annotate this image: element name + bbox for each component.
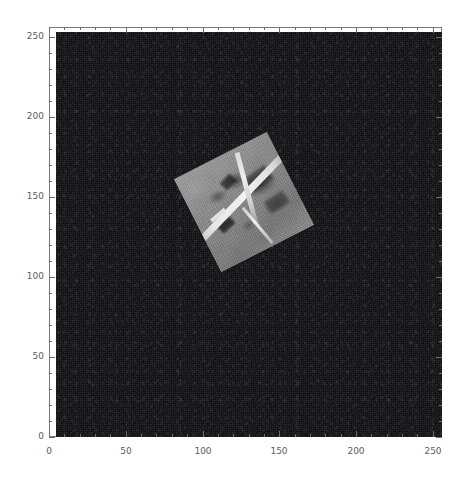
axis-tick <box>49 373 52 374</box>
axis-tick <box>49 293 52 294</box>
axis-tick <box>49 37 55 38</box>
axis-tick <box>387 27 388 30</box>
axis-tick <box>249 434 250 437</box>
axis-tick <box>80 27 81 30</box>
axis-tick <box>433 27 434 33</box>
axis-tick <box>49 437 55 438</box>
axis-tick <box>433 431 434 437</box>
axis-tick <box>203 431 204 437</box>
y-tick-label: 0 <box>19 431 44 441</box>
axis-tick <box>95 27 96 30</box>
axis-tick <box>439 373 442 374</box>
axis-tick <box>156 434 157 437</box>
axis-tick <box>264 434 265 437</box>
axis-tick <box>295 27 296 30</box>
axis-tick <box>49 341 52 342</box>
axis-tick <box>49 357 55 358</box>
axis-tick <box>126 27 127 33</box>
axis-tick <box>49 181 52 182</box>
axis-tick <box>110 434 111 437</box>
axis-tick <box>279 431 280 437</box>
axis-tick <box>439 261 442 262</box>
axis-tick <box>417 434 418 437</box>
axis-tick <box>49 197 55 198</box>
axis-tick <box>49 405 52 406</box>
y-tick-label: 150 <box>19 191 44 201</box>
axis-tick <box>49 69 52 70</box>
axis-tick <box>218 434 219 437</box>
axis-tick <box>439 213 442 214</box>
axis-tick <box>49 85 52 86</box>
axis-tick <box>439 149 442 150</box>
axis-tick <box>436 37 442 38</box>
axis-tick <box>110 27 111 30</box>
axis-tick <box>387 434 388 437</box>
axis-tick <box>439 389 442 390</box>
axis-tick <box>49 101 52 102</box>
axis-tick <box>310 434 311 437</box>
axis-tick <box>356 431 357 437</box>
x-tick-label: 150 <box>267 446 291 456</box>
axis-tick <box>439 165 442 166</box>
axis-tick <box>295 434 296 437</box>
axis-tick <box>49 261 52 262</box>
axis-tick <box>233 27 234 30</box>
axis-tick <box>264 27 265 30</box>
axis-tick <box>439 405 442 406</box>
axis-tick <box>49 133 52 134</box>
axis-tick <box>417 27 418 30</box>
axis-tick <box>141 27 142 30</box>
axis-tick <box>49 27 50 33</box>
axis-tick <box>439 325 442 326</box>
axis-tick <box>439 101 442 102</box>
axis-tick <box>49 149 52 150</box>
y-tick-label: 250 <box>19 31 44 41</box>
axis-tick <box>64 27 65 30</box>
axis-tick <box>156 27 157 30</box>
axis-tick <box>49 325 52 326</box>
x-tick-label: 200 <box>344 446 368 456</box>
axis-tick <box>49 213 52 214</box>
axis-tick <box>371 434 372 437</box>
axis-tick <box>49 245 52 246</box>
axis-tick <box>187 27 188 30</box>
y-tick-label: 50 <box>19 351 44 361</box>
axis-tick <box>49 165 52 166</box>
figure-canvas: 050100150200250050100150200250 <box>0 0 472 485</box>
axis-tick <box>49 309 52 310</box>
x-tick-label: 0 <box>37 446 61 456</box>
x-tick-label: 100 <box>191 446 215 456</box>
axis-tick <box>439 245 442 246</box>
axis-tick <box>249 27 250 30</box>
axis-tick <box>439 69 442 70</box>
axis-tick <box>325 434 326 437</box>
image-plot-area <box>56 32 442 437</box>
x-tick-label: 50 <box>114 446 138 456</box>
axis-tick <box>371 27 372 30</box>
axis-tick <box>436 357 442 358</box>
axis-tick <box>233 434 234 437</box>
axis-tick <box>49 389 52 390</box>
axis-tick <box>436 437 442 438</box>
axis-tick <box>356 27 357 33</box>
axis-tick <box>439 229 442 230</box>
axis-tick <box>172 434 173 437</box>
axis-tick <box>325 27 326 30</box>
axis-tick <box>402 434 403 437</box>
axis-tick <box>218 27 219 30</box>
axis-tick <box>439 53 442 54</box>
axis-tick <box>49 53 52 54</box>
axis-tick <box>439 421 442 422</box>
axis-tick <box>341 434 342 437</box>
axis-tick <box>49 421 52 422</box>
axis-tick <box>439 341 442 342</box>
axis-tick <box>436 197 442 198</box>
axis-tick <box>436 277 442 278</box>
axis-tick <box>80 434 81 437</box>
axis-tick <box>203 27 204 33</box>
axis-tick <box>279 27 280 33</box>
axis-tick <box>439 133 442 134</box>
axis-tick <box>436 117 442 118</box>
axis-tick <box>49 229 52 230</box>
axis-tick <box>64 434 65 437</box>
